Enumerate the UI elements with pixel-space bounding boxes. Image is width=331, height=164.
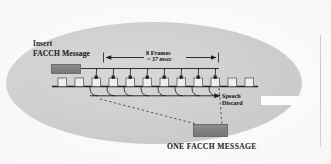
label-37-msec: ~ 37 msec — [147, 56, 172, 62]
frame-box — [228, 78, 237, 87]
frame-box — [75, 78, 84, 87]
label-facch-message: FACCH Message — [33, 50, 90, 59]
discard-hooks — [90, 87, 217, 96]
label-discard: Discard — [222, 100, 243, 107]
frame-box — [160, 78, 169, 87]
figure-page: Insert FACCH Message 8 Frames ~ 37 msec … — [0, 0, 331, 164]
frame-box — [143, 78, 152, 87]
insert-arrows — [96, 69, 215, 77]
frame-box — [109, 78, 118, 87]
frame-box — [177, 78, 186, 87]
diagram-vectors — [0, 0, 331, 164]
facch-message-block-source — [51, 64, 81, 74]
frame-box — [245, 78, 254, 87]
figure-caption: ONE FACCH MESSAGE — [167, 143, 257, 152]
frame-box — [194, 78, 203, 87]
frame-box — [92, 78, 101, 87]
callout-dashed-diagonal — [100, 99, 196, 124]
frame-box — [211, 78, 220, 87]
frame-boxes — [58, 78, 254, 87]
frame-box — [58, 78, 67, 87]
label-insert: Insert — [33, 40, 52, 48]
facch-message-block-assembled — [193, 124, 228, 137]
white-knockout-box — [261, 96, 299, 105]
frame-box — [126, 78, 135, 87]
label-speech: Speech — [222, 93, 241, 100]
